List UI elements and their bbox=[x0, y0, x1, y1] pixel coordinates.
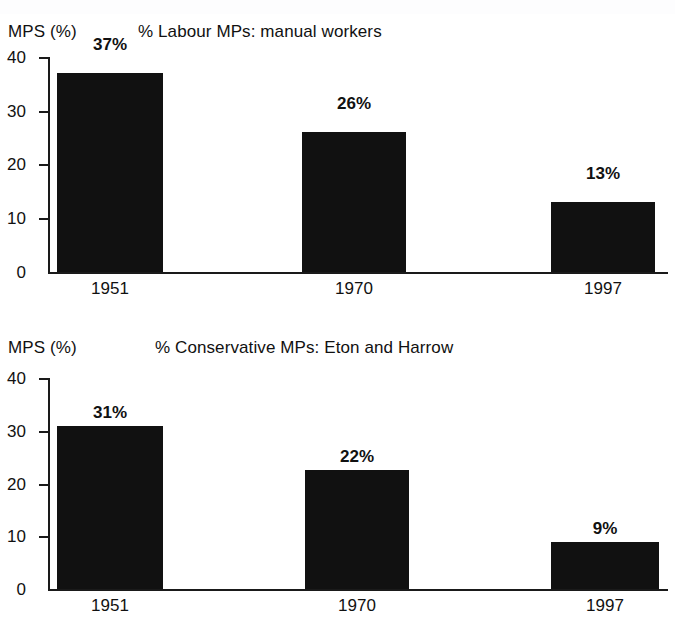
y-axis-label: MPS (%) bbox=[8, 22, 77, 42]
y-tick-10: 10 bbox=[39, 536, 48, 538]
bar-1997 bbox=[551, 202, 655, 272]
x-axis-label-1951: 1951 bbox=[91, 279, 129, 299]
y-tick-label-0: 0 bbox=[17, 263, 26, 283]
y-tick-label-0: 0 bbox=[17, 580, 26, 600]
x-axis-label-1970: 1970 bbox=[338, 596, 376, 616]
bar-1951 bbox=[57, 426, 163, 589]
y-tick-label-10: 10 bbox=[7, 209, 26, 229]
x-axis-label-1997: 1997 bbox=[586, 596, 624, 616]
plot-area: 40 30 20 10 0 37% 26% 13% 1951 1970 1997 bbox=[48, 57, 668, 272]
y-tick-30: 30 bbox=[39, 431, 48, 433]
y-tick-40: 40 bbox=[39, 57, 48, 59]
bar-value-1970: 22% bbox=[340, 447, 374, 467]
y-axis-line bbox=[48, 57, 50, 274]
bar-value-1951: 37% bbox=[93, 35, 127, 55]
bar-value-1997: 13% bbox=[586, 164, 620, 184]
bar-value-1997: 9% bbox=[593, 519, 618, 539]
bar-1997 bbox=[551, 542, 659, 589]
y-tick-10: 10 bbox=[39, 218, 48, 220]
chart-title: % Labour MPs: manual workers bbox=[138, 22, 382, 42]
bar-1951 bbox=[57, 73, 163, 272]
y-tick-label-10: 10 bbox=[7, 527, 26, 547]
y-tick-40: 40 bbox=[39, 378, 48, 380]
chart-labour-manual-workers: MPS (%) % Labour MPs: manual workers 40 … bbox=[0, 0, 675, 320]
y-tick-20: 20 bbox=[39, 484, 48, 486]
x-axis-label-1970: 1970 bbox=[335, 279, 373, 299]
x-axis-label-1997: 1997 bbox=[584, 279, 622, 299]
y-tick-label-40: 40 bbox=[7, 369, 26, 389]
y-tick-label-20: 20 bbox=[7, 475, 26, 495]
chart-conservative-eton-harrow: MPS (%) % Conservative MPs: Eton and Har… bbox=[0, 320, 675, 634]
x-axis-label-1951: 1951 bbox=[91, 596, 129, 616]
chart-title: % Conservative MPs: Eton and Harrow bbox=[155, 338, 453, 358]
plot-area: 40 30 20 10 0 31% 22% 9% 1951 1970 1997 bbox=[48, 378, 668, 589]
bar-value-1970: 26% bbox=[337, 94, 371, 114]
y-tick-label-30: 30 bbox=[7, 102, 26, 122]
bar-value-1951: 31% bbox=[93, 403, 127, 423]
bar-1970 bbox=[305, 470, 409, 589]
x-axis-line bbox=[48, 272, 668, 274]
y-tick-label-20: 20 bbox=[7, 155, 26, 175]
y-tick-label-30: 30 bbox=[7, 422, 26, 442]
y-axis-label: MPS (%) bbox=[8, 338, 77, 358]
y-tick-label-40: 40 bbox=[7, 48, 26, 68]
bar-1970 bbox=[302, 132, 406, 272]
x-axis-line bbox=[48, 589, 668, 591]
y-axis-line bbox=[48, 378, 50, 591]
y-tick-20: 20 bbox=[39, 164, 48, 166]
y-tick-30: 30 bbox=[39, 111, 48, 113]
